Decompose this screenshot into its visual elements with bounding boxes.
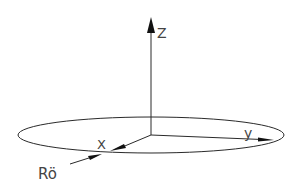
z-arrowhead-icon xyxy=(147,17,155,33)
x-arrowhead-icon xyxy=(110,144,126,151)
beam-arrowhead-icon xyxy=(88,154,102,160)
coordinate-diagram: Z y X Rö xyxy=(0,0,301,193)
x-axis-label: X xyxy=(97,137,106,152)
y-axis-label: y xyxy=(244,125,252,141)
z-axis-label: Z xyxy=(157,25,167,41)
beam-label: Rö xyxy=(38,165,57,183)
y-axis: y xyxy=(151,125,274,142)
x-axis: X xyxy=(97,135,151,152)
y-arrowhead-icon xyxy=(258,138,274,142)
beam-arrow: Rö xyxy=(38,154,102,183)
